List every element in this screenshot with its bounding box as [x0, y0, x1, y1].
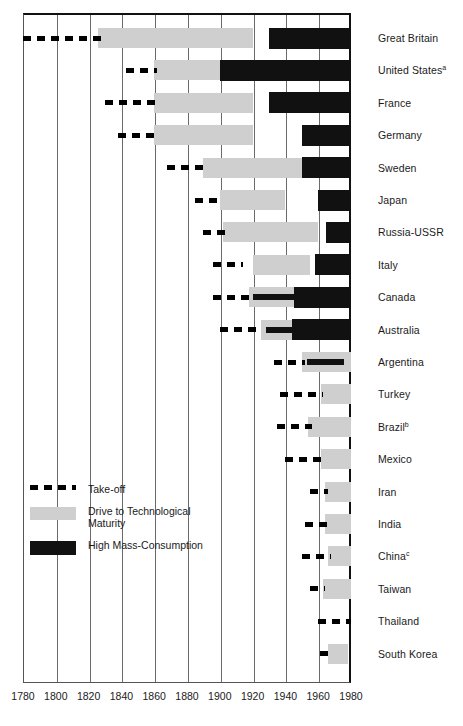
bar-segment [23, 36, 105, 41]
bar-segment [105, 100, 157, 105]
country-label: Great Britain [378, 32, 438, 44]
bar-segment [253, 255, 310, 275]
country-label: Japan [378, 194, 407, 206]
bar-segment [195, 198, 223, 203]
footnote-marker: a [442, 64, 446, 71]
bar-segment [253, 294, 299, 300]
bar-segment [154, 60, 220, 80]
bar-segment [274, 360, 305, 365]
bar-segment [325, 482, 351, 502]
bar-segment [280, 392, 323, 397]
bar-segment [292, 319, 351, 340]
legend-label-take-off: Take-off [88, 483, 125, 496]
bar-segment [310, 586, 325, 591]
gridline [155, 15, 156, 682]
bar-segment [305, 522, 328, 527]
axis-tick-label: 1960 [307, 690, 330, 702]
bar-segment [325, 514, 351, 534]
bar-segment [294, 287, 351, 308]
bar-segment [328, 546, 351, 566]
legend-item-take-off: Take-off [30, 483, 230, 496]
bar-segment [326, 222, 351, 243]
bar-segment [98, 28, 252, 48]
bar-segment [277, 424, 311, 429]
bar-segment [266, 327, 299, 333]
gridline [90, 15, 91, 682]
country-label: France [378, 97, 411, 109]
mass-consumption-swatch-icon [30, 541, 76, 555]
bar-segment [308, 417, 351, 437]
country-label: Chinac [378, 550, 410, 563]
axis-tick-label: 1980 [339, 690, 362, 702]
plot-area [23, 13, 351, 683]
country-label: Sweden [378, 162, 417, 174]
footnote-marker: c [406, 550, 410, 557]
bar-segment [223, 222, 318, 242]
bar-segment [321, 449, 351, 469]
country-label: Italy [378, 259, 398, 271]
bar-segment [203, 230, 228, 235]
bar-segment [220, 60, 351, 81]
bar-segment [321, 384, 351, 404]
country-label: United Statesa [378, 64, 446, 77]
bar-segment [203, 158, 301, 178]
axis-tick-label: 1940 [274, 690, 297, 702]
country-label: Thailand [378, 615, 419, 627]
axis-tick-label: 1880 [175, 690, 198, 702]
gridline [188, 15, 189, 682]
drive-swatch-icon [30, 507, 76, 520]
gridline [57, 15, 58, 682]
gridline [122, 15, 123, 682]
bar-segment [302, 125, 351, 146]
bar-segment [318, 190, 351, 211]
country-label: Australia [378, 324, 420, 336]
stages-of-growth-chart: Great BritainUnited StatesaFranceGermany… [0, 0, 463, 726]
axis-tick-label: 1920 [241, 690, 264, 702]
country-label: Brazilb [378, 421, 409, 434]
bar-segment [154, 125, 252, 145]
country-label: Turkey [378, 388, 410, 400]
bar-segment [167, 165, 206, 170]
bar-segment [213, 262, 243, 267]
legend-label-drive: Drive to Technological Maturity [88, 505, 223, 530]
gridline [319, 15, 320, 682]
axis-tick-label: 1820 [77, 690, 100, 702]
chart-legend: Take-off Drive to Technological Maturity… [30, 483, 230, 564]
bar-segment [315, 254, 351, 275]
country-label: Canada [378, 291, 415, 303]
gridline [286, 15, 287, 682]
bar-segment [126, 68, 157, 73]
bar-segment [269, 92, 351, 113]
bar-segment [213, 295, 249, 300]
bar-segment [220, 190, 286, 210]
axis-tick-label: 1840 [110, 690, 133, 702]
axis-tick-label: 1860 [143, 690, 166, 702]
legend-item-mass-consumption: High Mass-Consumption [30, 539, 230, 555]
bar-segment [320, 651, 333, 656]
bar-segment [310, 489, 328, 494]
axis-tick-label: 1900 [208, 690, 231, 702]
country-label: Russia-USSR [378, 226, 444, 238]
bar-segment [118, 133, 157, 138]
country-label: India [378, 518, 401, 530]
take-off-swatch-icon [30, 485, 76, 490]
gridline [221, 15, 222, 682]
country-label: Taiwan [378, 583, 411, 595]
country-label: South Korea [378, 648, 437, 660]
footnote-marker: b [405, 421, 409, 428]
bar-segment [307, 359, 345, 365]
gridline [254, 15, 255, 682]
bar-segment [154, 93, 252, 113]
bar-segment [318, 619, 351, 624]
country-label: Mexico [378, 453, 412, 465]
axis-tick-label: 1780 [11, 690, 34, 702]
legend-label-mass-consumption: High Mass-Consumption [88, 539, 203, 552]
bar-segment [323, 579, 351, 599]
bar-segment [285, 457, 323, 462]
country-label: Germany [378, 129, 422, 141]
legend-item-drive: Drive to Technological Maturity [30, 505, 230, 530]
country-label: Argentina [378, 356, 424, 368]
bar-segment [302, 157, 351, 178]
bar-segment [269, 28, 351, 49]
bar-segment [302, 554, 332, 559]
